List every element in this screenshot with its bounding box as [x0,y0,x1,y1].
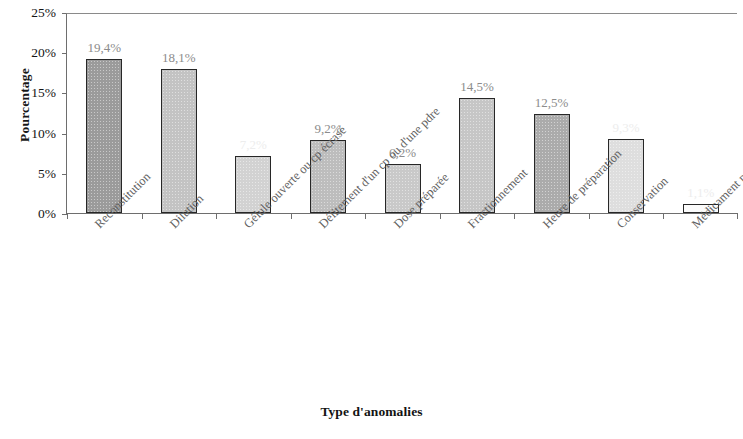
y-axis-tick-label: 25% [0,6,56,20]
x-axis-category-label: Gélule ouverte ou cp écrasé [242,222,251,231]
y-axis-tick-label: 15% [0,87,56,101]
x-axis-category-label: Heure de préparation [540,222,549,231]
bar-value-label: 18,1% [162,51,196,64]
bar-value-label: 12,5% [535,96,569,109]
y-axis-tick-label: 5% [0,167,56,181]
bar-value-label: 7,2% [240,138,267,151]
bar [86,59,122,213]
bar-value-label: 1,1% [687,186,714,199]
bar-value-label: 19,4% [87,41,121,54]
y-axis-tick-label: 20% [0,46,56,60]
y-axis-tick-label: 10% [0,127,56,141]
x-axis-category-label: Délitement d'un cp ou d'une pdre [317,222,326,231]
x-axis-category-label: Fractionnement [466,222,475,231]
bar-value-label: 14,5% [460,80,494,93]
x-axis-category-label: Dilution [167,222,176,231]
bar-value-label: 9,3% [613,121,640,134]
plot-area: 19,4%18,1%7,2%9,2%6,2%14,5%12,5%9,3%1,1% [66,13,737,214]
x-axis-category-labels: ReconstitutionDilutionGélule ouverte ou … [0,214,743,384]
x-axis-category-label: Reconstitution [93,222,102,231]
x-axis-category-label: Dose préparée [391,222,400,231]
x-axis-category-label: Conservation [615,222,624,231]
bar [161,69,197,213]
bar-chart: Pourcentage 0%5%10%15%20%25% 19,4%18,1%7… [0,0,743,439]
x-axis-title: Type d'anomalies [0,404,743,420]
y-axis-title: Pourcentage [17,45,33,165]
x-axis-category-label: Médicament préparé [689,222,698,231]
